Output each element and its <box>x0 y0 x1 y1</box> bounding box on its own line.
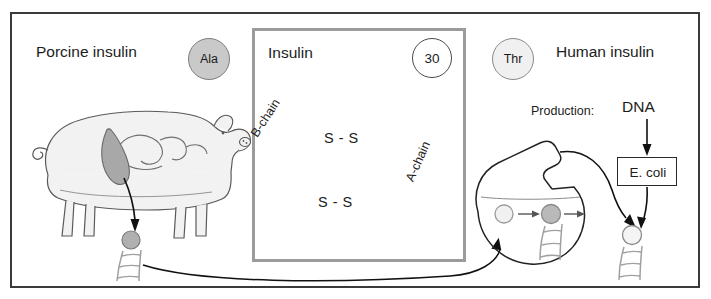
conversion-sequence <box>495 205 585 224</box>
dna-ladder-icon-human <box>619 226 642 281</box>
dna-ladder-icon-process <box>540 224 562 260</box>
threonine-residue-badge: Thr <box>492 38 534 80</box>
production-label: Production: <box>531 105 594 118</box>
insulin-panel-title: Insulin <box>268 45 313 61</box>
disulfide-bond-lower-label: S - S <box>318 194 353 210</box>
residue-position-label: 30 <box>424 51 439 66</box>
ecoli-host-box: E. coli <box>617 157 677 186</box>
flask-icon <box>476 141 584 264</box>
pig-icon <box>33 111 251 238</box>
residue-position-badge: 30 <box>412 38 452 78</box>
dna-source-label: DNA <box>622 99 655 115</box>
threonine-residue-label: Thr <box>504 52 523 66</box>
human-insulin-label: Human insulin <box>556 44 654 60</box>
dna-ladder-icon-porcine <box>117 231 141 281</box>
diagram-canvas: Porcine insulin Ala <box>0 0 711 299</box>
arrow-icon-ecoli-to-product <box>637 187 647 229</box>
disulfide-bond-upper-label: S - S <box>324 130 359 146</box>
ecoli-host-label: E. coli <box>618 158 678 187</box>
arrow-icon-dna-to-ecoli <box>643 119 652 156</box>
